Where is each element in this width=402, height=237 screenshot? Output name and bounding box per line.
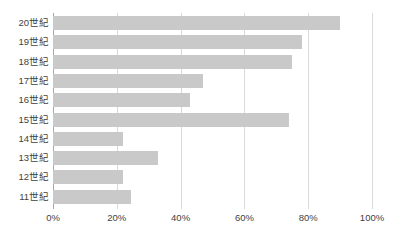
bar-row [53,74,372,88]
bar-row [53,93,372,107]
x-axis-tick-label: 20% [107,212,126,224]
x-axis-labels: 0%20%40%60%80%100% [53,212,372,232]
bar-row [53,190,372,204]
bar-chart: 20世紀19世紀18世紀17世紀16世紀15世紀14世紀13世紀12世紀11世紀… [0,0,402,237]
x-axis-tick-label: 0% [46,212,60,224]
bar [53,132,123,146]
bar [53,35,302,49]
y-axis-labels: 20世紀19世紀18世紀17世紀16世紀15世紀14世紀13世紀12世紀11世紀 [0,13,49,209]
y-axis-tick-label: 16世紀 [1,93,49,107]
bar-row [53,132,372,146]
bar [53,16,340,30]
y-axis-tick-label: 14世紀 [1,132,49,146]
y-axis-tick-label: 11世紀 [1,190,49,204]
bar-row [53,55,372,69]
bar [53,93,190,107]
x-axis-tick-label: 100% [360,212,384,224]
y-axis-tick-label: 18世紀 [1,55,49,69]
y-axis-tick-label: 19世紀 [1,35,49,49]
bar-row [53,151,372,165]
bar-row [53,170,372,184]
bar [53,151,158,165]
bar [53,113,289,127]
y-axis-tick-label: 17世紀 [1,74,49,88]
x-axis-tick-label: 80% [299,212,318,224]
plot-area [53,13,372,209]
bar [53,55,292,69]
bar-row [53,113,372,127]
bar-row [53,35,372,49]
x-axis-tick-label: 60% [235,212,254,224]
y-axis-tick-label: 15世紀 [1,113,49,127]
bar [53,74,203,88]
bar [53,170,123,184]
y-axis-tick-label: 13世紀 [1,151,49,165]
y-axis-tick-label: 12世紀 [1,170,49,184]
x-axis-tick-label: 40% [171,212,190,224]
gridline-100 [372,13,373,209]
bar [53,190,131,204]
y-axis-tick-label: 20世紀 [1,16,49,30]
bar-row [53,16,372,30]
